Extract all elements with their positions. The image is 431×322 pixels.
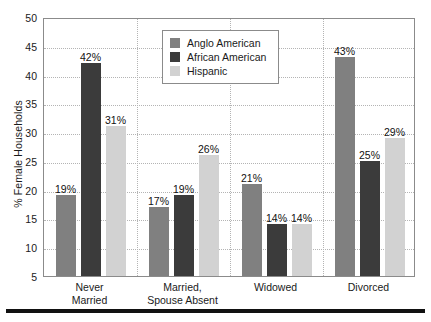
bar-value-label: 26% (198, 143, 219, 155)
x-axis-tick-line: Divorced (348, 281, 389, 294)
bar-value-label: 17% (148, 195, 169, 207)
y-axis-tick-10: 10 (15, 242, 37, 254)
x-axis-tick-line: Married, (147, 281, 218, 294)
bar (149, 207, 169, 276)
legend-label-hispanic: Hispanic (187, 66, 227, 77)
bar (242, 184, 262, 276)
y-axis-tick-25: 25 (15, 156, 37, 168)
bar-chart-figure: % Female Households 5045403530252015105 … (0, 0, 431, 322)
bar-value-label: 14% (266, 212, 287, 224)
bar-value-label: 42% (80, 51, 101, 63)
y-axis-tick-30: 30 (15, 127, 37, 139)
bar (81, 63, 101, 276)
bar (267, 224, 287, 276)
bar-value-label: 43% (334, 45, 355, 57)
bar-value-label: 25% (359, 149, 380, 161)
y-axis-tick-35: 35 (15, 98, 37, 110)
bar-value-label: 31% (105, 114, 126, 126)
x-axis-tick-label: NeverMarried (72, 281, 108, 306)
y-axis-tick-20: 20 (15, 185, 37, 197)
gridline-vertical (323, 19, 324, 276)
x-axis-tick-line: Married (72, 294, 108, 307)
x-axis-tick-label: Divorced (348, 281, 389, 294)
bar (360, 161, 380, 276)
y-axis-tick-40: 40 (15, 70, 37, 82)
bar-value-label: 19% (173, 183, 194, 195)
bar (106, 126, 126, 276)
legend-item-anglo-american: Anglo American (170, 36, 272, 50)
x-axis-tick-line: Widowed (254, 281, 297, 294)
legend-label-african-american: African American (187, 52, 266, 63)
legend-item-hispanic: Hispanic (170, 64, 272, 78)
gridline-vertical (137, 19, 138, 276)
y-axis-tick-5: 5 (15, 271, 37, 283)
bottom-divider-rule (6, 309, 425, 313)
x-axis-tick-label: Married,Spouse Absent (147, 281, 218, 306)
bar (174, 195, 194, 276)
bar-value-label: 14% (291, 212, 312, 224)
y-axis-tick-50: 50 (15, 12, 37, 24)
x-axis-tick-line: Spouse Absent (147, 294, 218, 307)
bar (335, 57, 355, 276)
bar-value-label: 29% (384, 126, 405, 138)
legend-swatch-hispanic (170, 66, 180, 76)
bar (56, 195, 76, 276)
x-axis-tick-line: Never (72, 281, 108, 294)
legend-item-african-american: African American (170, 50, 272, 64)
chart-legend: Anglo American African American Hispanic (162, 30, 279, 84)
legend-swatch-anglo-american (170, 38, 180, 48)
bar-value-label: 21% (241, 172, 262, 184)
y-axis-tick-45: 45 (15, 41, 37, 53)
bar-value-label: 19% (55, 183, 76, 195)
legend-swatch-african-american (170, 52, 180, 62)
y-axis-tick-labels: 5045403530252015105 (10, 0, 37, 322)
bar (199, 155, 219, 276)
y-axis-tick-15: 15 (15, 213, 37, 225)
legend-label-anglo-american: Anglo American (187, 38, 261, 49)
bar (385, 138, 405, 276)
x-axis-tick-label: Widowed (254, 281, 297, 294)
bar (292, 224, 312, 276)
